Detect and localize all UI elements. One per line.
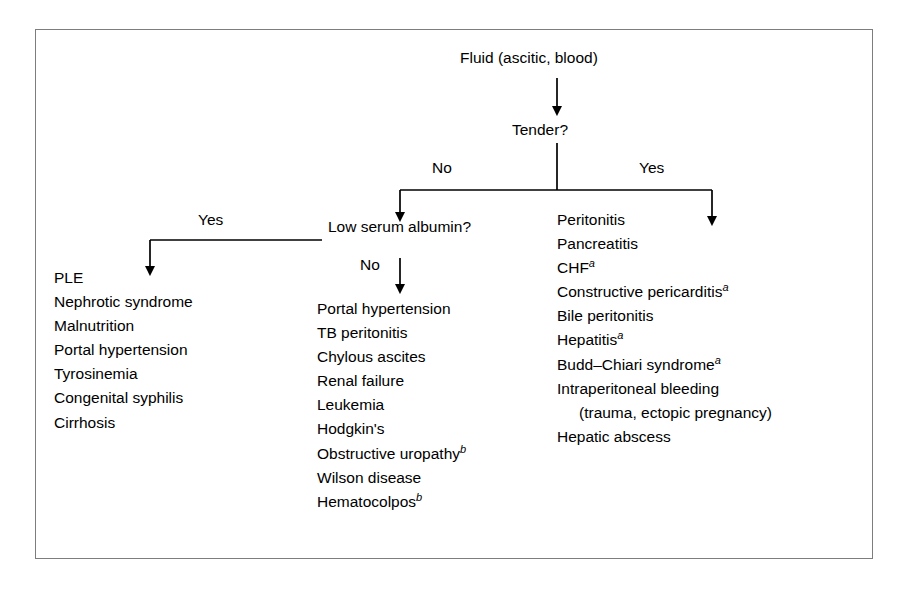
list-item: Budd–Chiari syndromea [557,353,772,377]
footnote-marker: b [416,491,422,503]
list-item-label: Wilson disease [317,469,421,486]
list-item-label: Malnutrition [54,317,134,334]
list-item-label: Pancreatitis [557,235,638,252]
list-item: (trauma, ectopic pregnancy) [557,401,772,425]
list-item-label: Bile peritonitis [557,307,654,324]
list-item-label: Renal failure [317,372,404,389]
list-item-label: TB peritonitis [317,324,407,341]
list-item: Chylous ascites [317,345,466,369]
list-item: Nephrotic syndrome [54,290,193,314]
list-item: Portal hypertension [317,297,466,321]
footnote-marker: a [715,353,721,365]
list-item-label: Hodgkin's [317,420,385,437]
list-item: Malnutrition [54,314,193,338]
list-item-label: Hematocolpos [317,493,416,510]
label-albumin-yes: Yes [198,212,223,228]
list-item-label: PLE [54,269,83,286]
node-low-serum-albumin: Low serum albumin? [328,219,471,235]
low-albumin-yes-list: PLENephrotic syndromeMalnutritionPortal … [54,266,193,435]
label-tender-no: No [432,160,452,176]
list-item-label: Hepatic abscess [557,428,671,445]
list-item: Congenital syphilis [54,386,193,410]
list-item: Intraperitoneal bleeding [557,377,772,401]
tender-yes-list: PeritonitisPancreatitisCHFaConstructive … [557,208,772,449]
list-item-label: CHF [557,259,589,276]
list-item-label: Obstructive uropathy [317,445,460,462]
list-item-label: Cirrhosis [54,414,115,431]
list-item: Portal hypertension [54,338,193,362]
list-item: Hodgkin's [317,417,466,441]
list-item-label: Constructive pericarditis [557,283,722,300]
list-item-label: Leukemia [317,396,384,413]
list-item: Constructive pericarditisa [557,280,772,304]
list-item-label: Nephrotic syndrome [54,293,193,310]
list-item: Wilson disease [317,466,466,490]
list-item-label: Tyrosinemia [54,365,138,382]
list-item-label: Congenital syphilis [54,389,183,406]
low-albumin-no-list: Portal hypertensionTB peritonitisChylous… [317,297,466,514]
node-tender: Tender? [512,122,568,138]
label-albumin-no: No [360,257,380,273]
footnote-marker: a [589,257,595,269]
list-item: Leukemia [317,393,466,417]
list-item-label: Peritonitis [557,211,625,228]
list-item-label: Hepatitis [557,331,617,348]
list-item-label: Budd–Chiari syndrome [557,356,715,373]
list-item: PLE [54,266,193,290]
list-item: Renal failure [317,369,466,393]
node-root: Fluid (ascitic, blood) [460,50,598,66]
list-item: Pancreatitis [557,232,772,256]
list-item-label: Portal hypertension [54,341,188,358]
footnote-marker: b [460,442,466,454]
footnote-marker: a [722,281,728,293]
list-item: Hepatitisa [557,328,772,352]
list-item-label: (trauma, ectopic pregnancy) [579,404,772,421]
list-item: TB peritonitis [317,321,466,345]
flowchart-figure: Fluid (ascitic, blood) Tender? Low serum… [0,0,901,601]
list-item: Bile peritonitis [557,304,772,328]
list-item-label: Intraperitoneal bleeding [557,380,719,397]
list-item: Hepatic abscess [557,425,772,449]
list-item: Peritonitis [557,208,772,232]
list-item: Hematocolposb [317,490,466,514]
label-tender-yes: Yes [639,160,664,176]
list-item: Tyrosinemia [54,362,193,386]
list-item-label: Chylous ascites [317,348,426,365]
list-item: Cirrhosis [54,411,193,435]
footnote-marker: a [617,329,623,341]
list-item-label: Portal hypertension [317,300,451,317]
list-item: Obstructive uropathyb [317,442,466,466]
list-item: CHFa [557,256,772,280]
